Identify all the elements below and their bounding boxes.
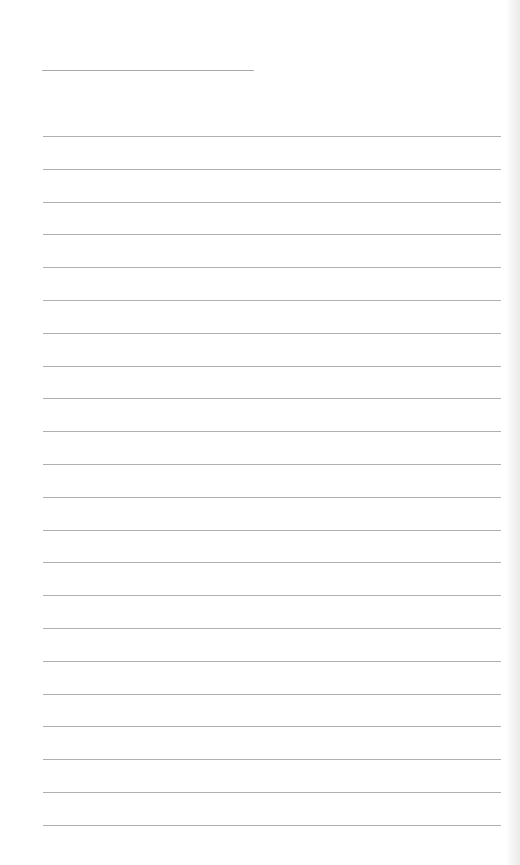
ruled-line: [43, 464, 501, 465]
ruled-line: [43, 333, 501, 334]
ruled-line: [43, 562, 501, 563]
ruled-line: [43, 726, 501, 727]
ruled-line: [43, 825, 501, 826]
ruled-line: [43, 661, 501, 662]
ruled-line: [43, 267, 501, 268]
ruled-line: [43, 234, 501, 235]
ruled-line: [43, 792, 501, 793]
ruled-line: [43, 595, 501, 596]
ruled-line: [43, 398, 501, 399]
ruled-line: [43, 530, 501, 531]
ruled-line: [43, 759, 501, 760]
ruled-line: [43, 169, 501, 170]
ruled-line: [43, 202, 501, 203]
ruled-line: [43, 497, 501, 498]
paper-edge-shade: [506, 0, 520, 865]
ruled-line: [43, 431, 501, 432]
ruled-line: [43, 628, 501, 629]
ruled-line: [43, 136, 501, 137]
ruled-line: [43, 694, 501, 695]
ruled-line: [43, 366, 501, 367]
title-writing-line: [42, 70, 254, 71]
ruled-line: [43, 300, 501, 301]
